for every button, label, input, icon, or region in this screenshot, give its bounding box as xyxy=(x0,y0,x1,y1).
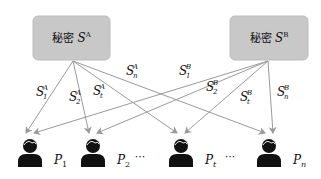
svg-text:B: B xyxy=(283,84,289,92)
participants: P1P2PtPn xyxy=(18,139,306,169)
secret-label-B: 秘密 SB xyxy=(250,31,289,45)
share-label-A-n: SAn xyxy=(126,63,138,80)
participant-label-P2: P2 xyxy=(116,153,130,169)
secret-boxes: 秘密 SA秘密 SB xyxy=(33,16,308,60)
participant-label-Pt: Pt xyxy=(204,153,217,169)
person-icon xyxy=(18,139,42,167)
svg-text:A: A xyxy=(42,84,48,92)
svg-text:n: n xyxy=(133,72,138,80)
share-label-A-1: SA1 xyxy=(36,84,48,101)
participant-label-P1: P1 xyxy=(53,153,67,169)
svg-text:t: t xyxy=(100,92,103,100)
participant-Pn: Pn xyxy=(257,139,306,169)
svg-text:B: B xyxy=(212,79,218,87)
svg-text:B: B xyxy=(185,63,191,71)
svg-text:A: A xyxy=(132,63,138,71)
share-label-B-2: SB2 xyxy=(206,79,218,96)
participant-P1: P1 xyxy=(18,139,67,169)
ellipsis: ··· xyxy=(225,150,236,163)
share-arrow-A-Pt xyxy=(73,61,177,133)
person-icon xyxy=(257,139,281,167)
svg-text:A: A xyxy=(75,89,81,97)
share-label-B-t: SBt xyxy=(240,89,252,106)
share-labels: SA1SA2SAtSAnSB1SB2SBtSBn xyxy=(36,63,289,106)
person-icon xyxy=(169,139,193,167)
share-arrows xyxy=(26,61,273,133)
person-icon xyxy=(81,139,105,167)
svg-text:2: 2 xyxy=(75,98,81,106)
share-label-A-2: SA2 xyxy=(69,89,81,106)
participant-Pt: Pt xyxy=(169,139,217,169)
svg-text:n: n xyxy=(284,93,289,101)
secret-box-B: 秘密 SB xyxy=(230,16,308,60)
share-label-A-t: SAt xyxy=(93,83,105,100)
share-label-B-1: SB1 xyxy=(179,63,191,80)
svg-text:2: 2 xyxy=(212,88,218,96)
share-label-B-n: SBn xyxy=(277,84,289,101)
share-arrow-A-P1 xyxy=(26,61,73,133)
share-arrow-B-Pt xyxy=(185,61,268,133)
svg-text:B: B xyxy=(246,89,252,97)
secret-sharing-diagram: 秘密 SA秘密 SB SA1SA2SAtSAnSB1SB2SBtSBn P1P2… xyxy=(0,0,321,179)
svg-text:1: 1 xyxy=(43,93,47,101)
secret-box-A: 秘密 SA xyxy=(33,16,110,60)
participant-label-Pn: Pn xyxy=(292,153,306,169)
ellipsis: ··· xyxy=(135,150,146,163)
share-arrow-B-Pn xyxy=(268,61,273,133)
svg-text:A: A xyxy=(99,83,105,91)
svg-text:1: 1 xyxy=(186,72,190,80)
svg-text:t: t xyxy=(247,98,250,106)
participant-P2: P2 xyxy=(81,139,130,169)
